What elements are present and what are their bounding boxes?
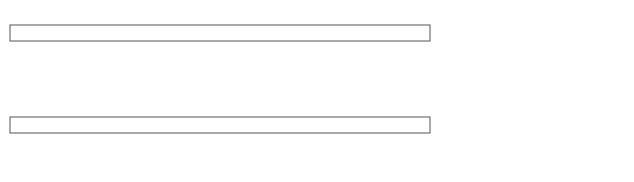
bottom-feed-bar (10, 117, 430, 133)
feed-mechanism-diagram (0, 0, 634, 182)
top-feed-bar (10, 25, 430, 41)
